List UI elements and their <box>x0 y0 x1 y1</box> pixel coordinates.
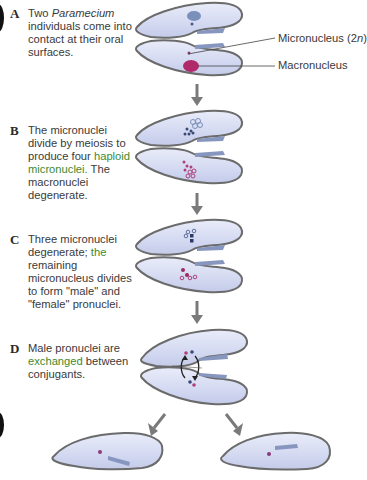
pair-a <box>136 3 242 75</box>
pair-d <box>141 330 247 404</box>
exconjugant-right <box>221 433 330 470</box>
exconjugant-left <box>52 433 162 469</box>
pair-b <box>136 111 242 183</box>
pair-c <box>136 220 242 292</box>
